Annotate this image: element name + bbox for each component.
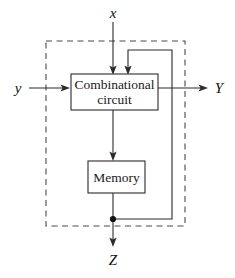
junction-dot <box>110 216 116 222</box>
combinational-circuit-label-line2: circuit <box>97 92 132 107</box>
signal-label-x: x <box>109 5 117 21</box>
signal-label-Y: Y <box>215 80 225 96</box>
block-diagram-svg: Combinational circuit Memory x y Y Z <box>0 0 235 278</box>
combinational-circuit-label-line1: Combinational <box>74 77 154 92</box>
memory-label: Memory <box>93 170 140 185</box>
signal-label-Z: Z <box>109 252 118 268</box>
signal-label-y: y <box>13 80 22 96</box>
figure-canvas: Combinational circuit Memory x y Y Z <box>0 0 235 278</box>
circuit-boundary <box>46 41 185 226</box>
